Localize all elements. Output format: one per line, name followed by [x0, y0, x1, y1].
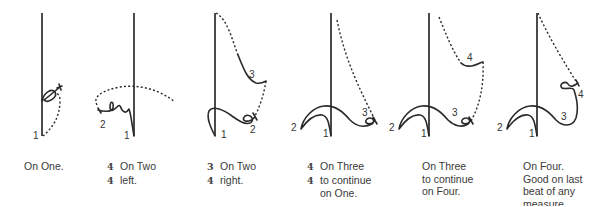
caption-text: On Three: [320, 160, 364, 173]
caption-text: right.: [220, 174, 243, 187]
caption-text: On Four.: [523, 160, 564, 173]
prep-lower: [255, 81, 266, 116]
prep-upper: [439, 17, 461, 63]
caption-text: on One.: [320, 187, 357, 200]
beat-three-gesture: [399, 106, 473, 136]
figure-on-three-continue-one: 2 1 3: [291, 13, 377, 139]
caption-on-two-right: 3On Two 4right.: [207, 160, 256, 187]
beat-label-1: 1: [529, 128, 535, 139]
beat-label-2: 2: [291, 122, 297, 133]
prep-upper: [216, 13, 238, 55]
beat-label-3: 3: [249, 69, 255, 80]
prep-arc: [96, 86, 175, 105]
caption-on-one: On One.: [24, 160, 64, 173]
figure-on-two-right: 1 2 3: [208, 13, 266, 140]
prep-path: [538, 13, 577, 83]
prep-path: [337, 20, 375, 120]
beat-label-4: 4: [578, 89, 584, 100]
caption-on-three-continue-four: On Three to continue on Four.: [422, 160, 473, 198]
beat-label-1: 1: [323, 128, 329, 139]
caption-text: left.: [120, 174, 137, 187]
time-signature-top: 3: [207, 161, 220, 174]
beat-label-4: 4: [467, 52, 473, 63]
caption-text: on Four.: [422, 185, 461, 198]
time-signature-bottom: 4: [207, 175, 220, 188]
figure-on-one: 1: [33, 13, 62, 141]
beat-label-2: 2: [250, 124, 256, 135]
beat-label-2: 2: [389, 122, 395, 133]
caption-text: to continue: [422, 173, 473, 186]
caption-text: On Three: [422, 160, 466, 173]
time-signature-bottom: 4: [307, 175, 320, 188]
beat-label-3: 3: [452, 107, 458, 118]
time-signature-top: 4: [307, 161, 320, 174]
beat-label-2: 2: [100, 119, 106, 130]
beat-label-3: 3: [362, 107, 368, 118]
caption-on-three-continue-one: 4On Three 4to continue on One.: [307, 160, 371, 200]
beat-gesture: [507, 80, 579, 136]
conducting-patterns-diagram: 1 2 1 1 2 3 2 1 3 2 1 3 4: [0, 0, 591, 206]
beat-label-1: 1: [124, 130, 130, 141]
time-signature-bottom: 4: [107, 175, 120, 188]
beat-label-1: 1: [421, 128, 427, 139]
beat-label-1: 1: [221, 129, 227, 140]
prep-lower: [471, 62, 483, 121]
caption-on-four: On Four. Good on last beat of any measur…: [523, 160, 583, 206]
figure-on-four: 2 1 3 4: [497, 13, 584, 139]
caption-text: On Two: [120, 160, 156, 173]
figure-on-two-left: 2 1: [96, 13, 175, 141]
caption-text: beat of any: [523, 185, 575, 198]
time-signature-top: 4: [107, 161, 120, 174]
caption-text: Good on last: [523, 173, 583, 186]
caption-text: On Two: [220, 160, 256, 173]
caption-text: to continue: [320, 174, 371, 187]
caption-text: measure.: [523, 198, 567, 207]
beat-label-2: 2: [497, 122, 503, 133]
figure-on-three-continue-four: 2 1 3 4: [389, 13, 483, 139]
beat-label-1: 1: [33, 130, 39, 141]
caption-text: On One.: [24, 160, 64, 173]
beat-label-3: 3: [561, 111, 567, 122]
caption-on-two-left: 4On Two 4left.: [107, 160, 156, 187]
